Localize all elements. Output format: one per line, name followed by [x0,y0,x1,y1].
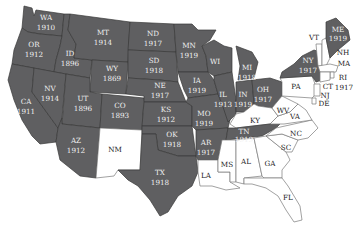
label-ia-year: 1919 [188,86,207,95]
label-sc-abbr: SC [281,143,292,152]
label-mi-year: 1918 [238,73,257,82]
label-id-abbr: ID [66,49,75,58]
label-me-year: 1919 [329,34,348,43]
label-ia-abbr: IA [193,76,202,85]
label-or-abbr: OR [28,40,40,49]
label-az-abbr: AZ [70,136,81,145]
label-nv-year: 1914 [41,94,60,103]
label-nc-abbr: NC [290,129,302,138]
us-suffrage-map: WA 1910 OR 1912 CA 1911 ID 1896 NV 1914 … [0,0,359,229]
label-co-year: 1893 [111,111,130,120]
label-ms-abbr: MS [221,160,233,169]
label-in-year: 1919 [234,100,253,109]
label-il-year: 1913 [214,100,233,109]
label-mi-abbr: MI [242,63,252,72]
label-wa-abbr: WA [40,13,53,22]
label-id-year: 1896 [61,59,80,68]
label-sd-year: 1918 [145,66,164,75]
label-ri-year: 1917 [335,83,354,92]
label-tx-abbr: TX [155,168,166,177]
label-mt-year: 1914 [94,38,113,47]
label-wy-year: 1869 [103,74,122,83]
label-mt-abbr: MT [97,28,109,37]
label-ca-abbr: CA [21,97,32,106]
label-ga-abbr: GA [265,159,277,168]
label-ut-abbr: UT [78,94,89,103]
label-wv-abbr: WV [277,106,290,115]
label-vt-abbr: VT [308,33,319,42]
state-ri [330,72,334,78]
label-mn-year: 1919 [180,51,199,60]
label-ca-year: 1911 [17,107,35,116]
label-wa-year: 1910 [37,23,56,32]
label-il-abbr: IL [219,90,227,99]
label-mo-year: 1919 [195,119,214,128]
label-ky-abbr: KY [250,116,260,125]
label-mn-abbr: MN [182,41,196,50]
label-ma-abbr: MA [338,59,351,68]
label-tn-year: 1919 [235,135,254,144]
label-ut-year: 1896 [74,104,93,113]
label-de-abbr: DE [318,99,329,108]
state-fl [244,178,302,222]
label-al-abbr: AL [240,157,251,166]
label-ks-abbr: KS [161,105,171,114]
label-nv-abbr: NV [44,84,56,93]
label-sd-abbr: SD [149,56,160,65]
label-ri-abbr: RI [339,73,347,82]
label-tx-year: 1918 [151,178,170,187]
label-wi-abbr: WI [210,57,220,66]
label-ny-abbr: NY [302,56,313,65]
label-mo-abbr: MO [197,109,210,118]
label-fl-abbr: FL [283,193,293,202]
label-ok-year: 1918 [163,140,182,149]
label-la-abbr: LA [201,171,212,180]
label-nm-abbr: NM [108,145,122,154]
label-oh-year: 1917 [254,95,273,104]
label-ar-abbr: AR [200,138,212,147]
state-de [312,98,316,104]
label-ne-abbr: NE [154,81,166,90]
state-ct [320,72,330,82]
label-ny-year: 1917 [299,66,318,75]
label-pa-abbr: PA [291,82,301,91]
label-nh-abbr: NH [337,48,350,57]
label-ar-year: 1917 [197,148,216,157]
label-wy-abbr: WY [106,64,118,73]
label-oh-abbr: OH [257,85,269,94]
label-va-abbr: VA [289,112,301,121]
label-nd-abbr: ND [147,29,159,38]
label-ct-abbr: CT [323,82,333,91]
label-ne-year: 1917 [151,91,170,100]
label-or-year: 1912 [25,50,43,59]
label-me-abbr: ME [332,25,345,34]
label-ok-abbr: OK [166,130,178,139]
label-ks-year: 1912 [157,115,175,124]
label-nd-year: 1917 [144,39,163,48]
state-ma [318,64,338,72]
state-nj [314,84,320,96]
label-az-year: 1912 [67,146,85,155]
label-co-abbr: CO [114,101,125,110]
label-in-abbr: IN [238,90,247,99]
